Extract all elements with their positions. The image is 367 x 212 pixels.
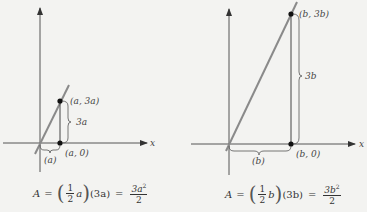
right-diagram: x (b, 3b) 3b (b, 0) (b)	[191, 2, 364, 175]
fraction-denominator: 2	[259, 195, 265, 205]
right-height-brace-icon	[293, 14, 302, 144]
open-paren: (	[57, 183, 65, 203]
left-base-label: (a)	[44, 155, 57, 165]
fraction-denominator: 2	[67, 194, 73, 204]
right-bottom-point-label: (b, 0)	[296, 149, 321, 159]
left-bottom-point	[57, 140, 62, 145]
result-numerator: 3b	[324, 185, 336, 195]
result-denominator: 2	[136, 195, 142, 205]
formula-second-factor: (3a)	[90, 188, 110, 199]
fraction-numerator: 1	[258, 184, 266, 195]
result-fraction: 3b2 2	[323, 182, 340, 206]
formula-second-factor: (3b)	[282, 189, 303, 200]
left-height-brace-icon	[62, 101, 71, 143]
result-denominator: 2	[329, 196, 335, 206]
left-area-formula: A = ( 1 2 a ) (3a) = 3a2 2	[33, 181, 149, 205]
right-top-point-label: (b, 3b)	[299, 9, 329, 19]
right-base-label: (b)	[252, 156, 265, 166]
result-exponent: 2	[336, 183, 340, 190]
right-area-formula: A = ( 1 2 b ) (3b) = 3b2 2	[225, 182, 343, 206]
result-numerator: 3a	[131, 184, 142, 194]
left-top-point-label: (a, 3a)	[70, 96, 100, 106]
right-top-point	[288, 11, 293, 16]
left-base-brace-icon	[40, 145, 60, 153]
formula-equals: =	[236, 189, 244, 200]
open-paren: (	[249, 184, 257, 204]
half-fraction: 1 2	[258, 184, 266, 205]
close-paren: )	[82, 183, 90, 203]
fraction-numerator: 1	[66, 183, 74, 194]
result-fraction: 3a2 2	[130, 181, 147, 205]
right-line-y-eq-3x	[226, 2, 297, 151]
right-height-label: 3b	[305, 71, 317, 81]
left-x-axis-label: x	[150, 138, 155, 148]
left-height-label: 3a	[76, 117, 87, 127]
left-top-point	[57, 98, 62, 103]
left-diagram: x (a, 3a) 3a (a, 0) (a)	[3, 8, 155, 172]
formula-lhs: A	[33, 188, 40, 199]
right-base-brace-icon	[229, 146, 291, 155]
formula-equals-2: =	[308, 189, 316, 200]
formula-lhs: A	[225, 189, 232, 200]
right-bottom-point	[288, 141, 293, 146]
formula-equals: =	[44, 188, 52, 199]
right-x-axis-label: x	[359, 139, 364, 149]
half-fraction: 1 2	[66, 183, 74, 204]
left-bottom-point-label: (a, 0)	[65, 148, 89, 158]
close-paren: )	[275, 184, 283, 204]
result-exponent: 2	[143, 182, 147, 189]
formula-equals-2: =	[115, 188, 123, 199]
